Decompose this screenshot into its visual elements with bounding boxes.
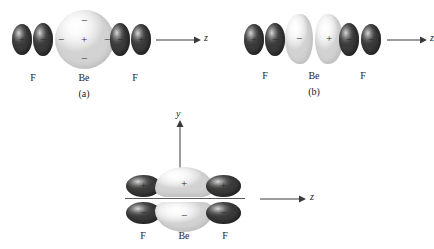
panel-c-be-lower-sign: − — [164, 210, 204, 221]
panel-b: + − − + − − z F Be F (b) — [217, 0, 434, 110]
panel-c-y-axis — [174, 120, 186, 174]
panel-b-label-be: Be — [299, 70, 329, 81]
panel-b-z-axis — [387, 34, 427, 46]
panel-b-label-f-left: F — [250, 70, 280, 81]
panel-b-caption: (b) — [299, 86, 329, 97]
panel-c-label-f-left: F — [128, 230, 158, 241]
panel-c-nodal-line — [125, 198, 245, 199]
panel-c-be-upper-sign: + — [164, 178, 204, 189]
panel-c-f-right-lower-sign: − — [206, 207, 241, 218]
panel-c-z-axis — [260, 193, 306, 205]
panel-a-f-left-inner-sign: − — [33, 34, 53, 45]
panel-b-f-left-outer-sign: + — [244, 34, 264, 45]
panel-a-label-be: Be — [69, 72, 99, 83]
panel-c: y + + + − − − z F Be F — [100, 110, 360, 249]
panel-a-be-s-node-left-sign: − — [54, 34, 68, 45]
panel-b-z-axis-label: z — [430, 32, 434, 43]
panel-b-f-left-inner-sign: − — [265, 34, 285, 45]
panel-a-f-right-inner-sign: − — [110, 34, 130, 45]
panel-a: + − − + − − − − + z F Be F (a) — [0, 0, 217, 110]
panel-b-be-p-right-sign: + — [319, 33, 339, 44]
panel-b-f-right-outer-sign: − — [361, 34, 381, 45]
panel-a-be-s-center-sign: + — [74, 34, 94, 45]
panel-b-f-right-inner-sign: − — [339, 34, 359, 45]
panel-b-be-p-left-sign: − — [289, 33, 309, 44]
panel-a-be-s-node-bottom-sign: − — [74, 53, 94, 64]
panel-a-f-left-outer-sign: + — [12, 34, 32, 45]
panel-a-label-f-right: F — [120, 72, 150, 83]
panel-a-f-right-outer-sign: + — [131, 34, 151, 45]
panel-b-label-f-right: F — [348, 70, 378, 81]
panel-c-y-axis-label: y — [176, 108, 180, 119]
panel-c-f-right-upper-sign: + — [206, 180, 241, 191]
panel-a-z-axis — [156, 34, 202, 46]
panel-a-be-s-node-top-sign: − — [74, 15, 94, 26]
panel-c-label-f-right: F — [210, 230, 240, 241]
panel-c-label-be: Be — [169, 230, 199, 241]
panel-a-z-axis-label: z — [204, 32, 208, 43]
panel-a-label-f-left: F — [18, 72, 48, 83]
panel-c-z-axis-label: z — [310, 191, 314, 202]
panel-a-caption: (a) — [69, 88, 99, 99]
figure-canvas: + − − + − − − − + z F Be F (a) + — [0, 0, 434, 249]
